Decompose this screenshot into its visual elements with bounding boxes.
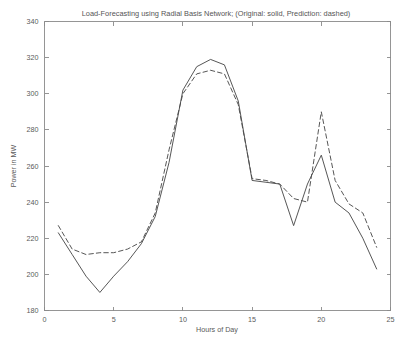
tick-marks-layer bbox=[45, 22, 391, 311]
series-line-original bbox=[58, 59, 376, 292]
y-tick-label: 280 bbox=[27, 125, 39, 134]
y-tick-label: 300 bbox=[27, 89, 39, 98]
y-tick-label: 180 bbox=[27, 306, 39, 315]
load-forecasting-chart: Load-Forecasting using Radial Basis Netw… bbox=[0, 0, 413, 344]
x-axis-title: Hours of Day bbox=[196, 325, 238, 334]
axis-titles-group: Hours of Day Power in MW bbox=[9, 144, 238, 334]
y-axis-title: Power in MW bbox=[9, 144, 18, 187]
x-tick-label: 25 bbox=[387, 315, 395, 324]
figure-container: Load-Forecasting using Radial Basis Netw… bbox=[0, 0, 413, 344]
x-tick-label: 5 bbox=[112, 315, 116, 324]
x-tick-label: 10 bbox=[179, 315, 187, 324]
chart-title-group: Load-Forecasting using Radial Basis Netw… bbox=[82, 9, 351, 18]
y-tick-label: 220 bbox=[27, 234, 39, 243]
y-tick-label: 200 bbox=[27, 270, 39, 279]
y-tick-label: 240 bbox=[27, 198, 39, 207]
data-series-layer bbox=[58, 59, 376, 292]
y-tick-label: 260 bbox=[27, 162, 39, 171]
y-tick-label: 340 bbox=[27, 17, 39, 26]
chart-title: Load-Forecasting using Radial Basis Netw… bbox=[82, 9, 351, 18]
series-line-prediction bbox=[58, 70, 376, 254]
axes-layer bbox=[45, 22, 391, 311]
x-tick-label: 15 bbox=[248, 315, 256, 324]
x-tick-label: 20 bbox=[317, 315, 325, 324]
y-tick-label: 320 bbox=[27, 53, 39, 62]
tick-labels-layer: 0510152025180200220240260280300320340 bbox=[27, 17, 395, 323]
x-tick-label: 0 bbox=[43, 315, 47, 324]
plot-frame bbox=[45, 22, 391, 311]
